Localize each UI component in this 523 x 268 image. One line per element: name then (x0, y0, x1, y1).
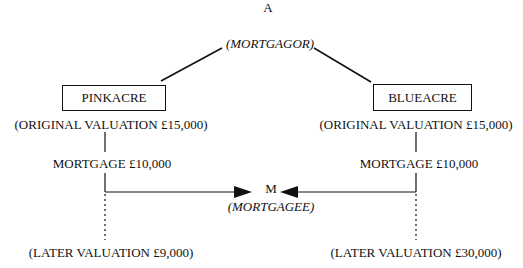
pinkacre-mortgage: MORTGAGE £10,000 (53, 157, 171, 171)
pinkacre-box: PINKACRE (62, 85, 166, 111)
blueacre-later-valuation: (LATER VALUATION £30,000) (330, 246, 501, 260)
blueacre-original-valuation: (ORIGINAL VALUATION £15,000) (320, 118, 513, 132)
arrowhead-right-icon (234, 186, 252, 198)
line-a-to-blueacre (314, 48, 371, 82)
mortgagee-label: M (265, 182, 277, 196)
blueacre-name: BLUEACRE (388, 90, 457, 106)
line-a-to-pinkacre (161, 48, 222, 81)
pinkacre-later-valuation: (LATER VALUATION £9,000) (29, 246, 194, 260)
mortgagee-role: (MORTGAGEE) (228, 200, 315, 214)
blueacre-mortgage: MORTGAGE £10,000 (360, 157, 478, 171)
arrowhead-left-icon (280, 186, 298, 198)
mortgagor-role: (MORTGAGOR) (226, 37, 314, 51)
pinkacre-original-valuation: (ORIGINAL VALUATION £15,000) (15, 118, 208, 132)
blueacre-box: BLUEACRE (373, 84, 472, 111)
pinkacre-name: PINKACRE (81, 90, 146, 106)
mortgagor-label: A (263, 1, 272, 15)
